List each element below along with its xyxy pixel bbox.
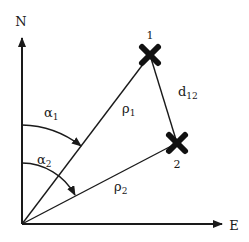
point-2-label: 2 [174,158,181,171]
range-2-label: ρ2 [114,179,127,196]
east-axis-label: E [229,218,239,233]
bearing-range-diagram: N E 1 2 ρ1 ρ2 α1 α2 d12 [0,0,249,242]
point-1-label: 1 [147,29,154,42]
x-cross-icon [169,135,185,151]
range-1-label: ρ1 [122,101,135,118]
angle-arc-1 [22,125,81,146]
distance-label: d12 [178,84,198,101]
north-axis-label: N [15,14,26,29]
angle-1-label: α1 [44,105,59,122]
distance-line-12 [150,55,177,143]
x-cross-icon [142,47,158,63]
range-line-1 [22,55,150,224]
angle-2-label: α2 [37,152,52,169]
